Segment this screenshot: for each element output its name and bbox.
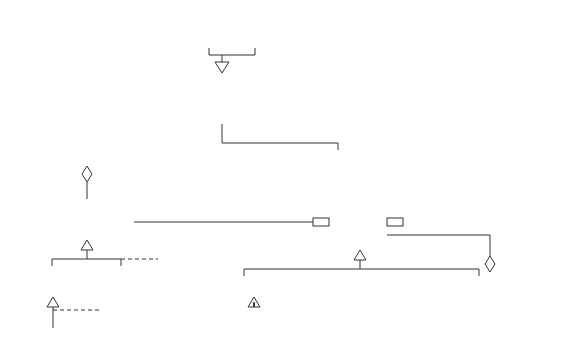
connector-lines (0, 0, 586, 351)
uml-diagram (0, 0, 586, 351)
